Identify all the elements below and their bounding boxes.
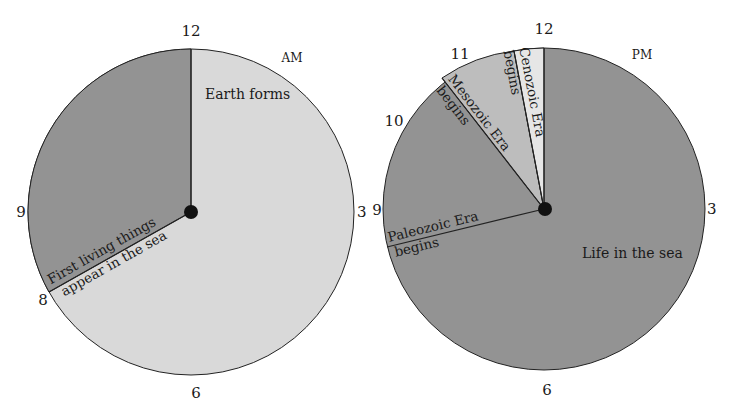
left-hour-9: 9: [16, 203, 26, 221]
left-clock: 12 3 6 9 8 AM Earth forms First living t…: [16, 22, 366, 402]
right-period-label: PM: [632, 48, 652, 62]
right-hour-9: 9: [372, 201, 382, 219]
left-hour-6: 6: [191, 384, 201, 402]
right-hour-12: 12: [534, 20, 553, 38]
right-clock: 12 3 6 9 10 11 PM Life in the sea Paleoz…: [372, 20, 716, 399]
right-center-dot: [538, 202, 552, 216]
life-in-the-sea-label: Life in the sea: [582, 245, 683, 261]
geologic-clock-diagram: 12 3 6 9 8 AM Earth forms First living t…: [0, 0, 729, 413]
earth-forms-label: Earth forms: [205, 86, 290, 102]
right-hour-3: 3: [707, 200, 717, 218]
left-hour-12: 12: [181, 22, 200, 40]
left-period-label: AM: [281, 51, 303, 65]
left-hour-3: 3: [357, 203, 367, 221]
right-hour-6: 6: [542, 381, 552, 399]
right-hour-11: 11: [450, 45, 469, 63]
right-hour-10: 10: [384, 112, 403, 130]
left-hour-8: 8: [38, 291, 48, 309]
left-center-dot: [184, 205, 198, 219]
